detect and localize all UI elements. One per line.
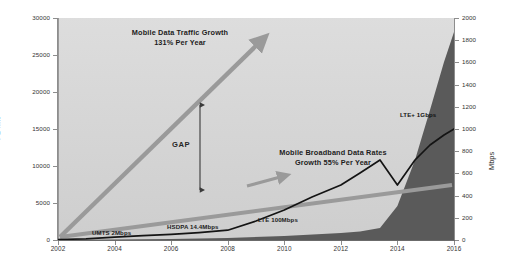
tech-label-lte-plus: LTE+ 1Gbps <box>400 111 436 118</box>
broadband-annotation-pointer <box>247 176 284 186</box>
chart-figure: 30000 25000 20000 15000 10000 5000 0 200… <box>0 0 512 270</box>
annotation-traffic-growth: Mobile Data Traffic Growth 131% Per Year <box>92 28 268 47</box>
annotation-traffic-growth-line1: Mobile Data Traffic Growth <box>92 28 268 38</box>
annotation-traffic-growth-line2: 131% Per Year <box>92 38 268 48</box>
tech-label-umts: UMTS 2Mbps <box>92 229 131 236</box>
annotation-broadband-growth: Mobile Broadband Data Rates Growth 55% P… <box>252 148 414 167</box>
tech-label-hsdpa: HSDPA 14.4Mbps <box>167 223 219 230</box>
annotation-gap-label: GAP <box>172 140 190 149</box>
annotation-broadband-growth-line1: Mobile Broadband Data Rates <box>252 148 414 158</box>
tech-label-lte: LTE 100Mbps <box>258 216 298 223</box>
annotation-broadband-growth-line2: Growth 55% Per Year <box>252 158 414 168</box>
series-filled-area <box>58 32 454 240</box>
series-traffic-growth-arrow <box>60 40 262 237</box>
